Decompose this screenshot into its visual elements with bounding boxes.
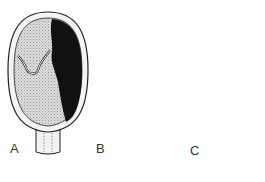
panel-label-a: A: [10, 141, 19, 156]
panel-label-c: C: [190, 143, 199, 158]
panel-a-uterus: [8, 12, 88, 154]
diagram-canvas: [0, 0, 265, 182]
panel-label-b: B: [96, 141, 105, 156]
